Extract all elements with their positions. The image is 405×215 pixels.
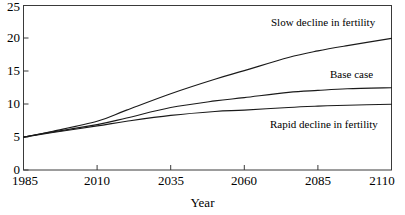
x-tick-label-1985: 1985 xyxy=(2,174,48,187)
y-tick-label-25: 25 xyxy=(0,0,20,13)
y-axis-ticks xyxy=(24,6,29,171)
y-tick-label-20: 20 xyxy=(0,31,20,44)
chart-figure: 0 5 10 15 20 25 1985 2010 2035 2060 2085… xyxy=(0,0,405,215)
y-tick-label-5: 5 xyxy=(0,130,20,143)
series-label-rapid-decline: Rapid decline in fertility xyxy=(270,119,378,130)
y-tick-label-15: 15 xyxy=(0,64,20,77)
x-tick-label-2060: 2060 xyxy=(221,174,267,187)
x-tick-label-2035: 2035 xyxy=(148,174,194,187)
plot-frame xyxy=(24,6,392,171)
plot-canvas xyxy=(0,0,405,215)
y-tick-label-10: 10 xyxy=(0,97,20,110)
series-label-slow-decline: Slow decline in fertility xyxy=(271,17,375,28)
x-tick-label-2085: 2085 xyxy=(295,174,341,187)
series-label-base-case: Base case xyxy=(330,69,373,80)
x-tick-label-2010: 2010 xyxy=(74,174,120,187)
x-tick-label-2110: 2110 xyxy=(359,174,405,187)
x-axis-title: Year xyxy=(0,196,405,209)
x-axis-ticks xyxy=(24,165,392,170)
